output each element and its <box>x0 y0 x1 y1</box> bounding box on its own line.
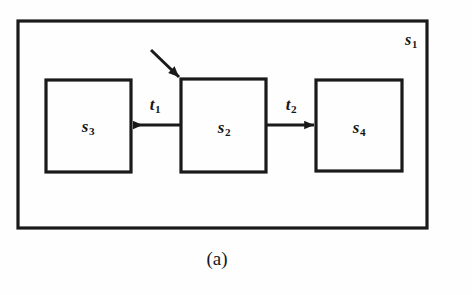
state-label-s4-base: s <box>353 118 360 137</box>
figure-container: s1 s3 s2 s4 t1 t2 (a) <box>0 0 472 295</box>
figure-caption: (a) <box>0 248 434 270</box>
state-label-s3-sub: 3 <box>89 125 95 137</box>
outer-state-label-sub: 1 <box>412 39 417 50</box>
outer-state-label: s1 <box>405 32 417 48</box>
transition-label-t2-sub: 2 <box>291 103 297 115</box>
state-label-s3: s3 <box>82 118 95 135</box>
transition-label-t1-sub: 1 <box>155 103 161 115</box>
state-label-s2-base: s <box>218 118 225 137</box>
state-label-s4: s4 <box>353 119 366 136</box>
outer-state-label-base: s <box>405 31 411 48</box>
state-label-s3-base: s <box>82 117 89 136</box>
transition-label-t1: t1 <box>150 96 161 113</box>
transition-label-t2: t2 <box>286 96 297 113</box>
state-label-s2-sub: 2 <box>225 126 231 138</box>
state-label-s2: s2 <box>218 119 231 136</box>
entry-arrow <box>151 50 179 77</box>
state-label-s4-sub: 4 <box>360 126 366 138</box>
